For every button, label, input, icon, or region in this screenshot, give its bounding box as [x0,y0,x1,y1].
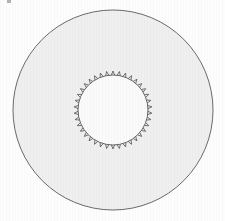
inner-disk-circle [78,75,148,145]
figure-canvas: Concentric annulus with toothed inner ri… [0,0,225,221]
corner-speck-artifact [7,0,11,3]
annulus-figure: Concentric annulus with toothed inner ri… [0,0,225,221]
